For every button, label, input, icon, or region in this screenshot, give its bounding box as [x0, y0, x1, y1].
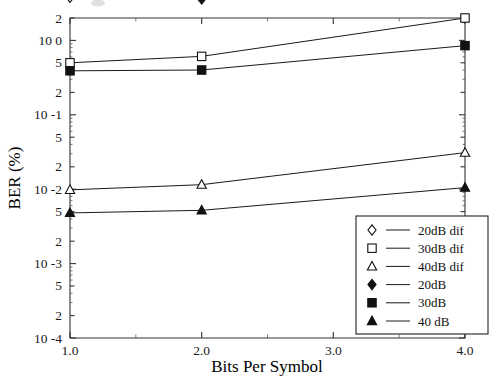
chart-legend: 20dB dif30dB dif40dB dif20dB30dB40 dB	[356, 216, 488, 334]
x-tick-label-0: 1.0	[62, 343, 79, 358]
y-tick-label-5: 5	[55, 130, 62, 145]
y-tick-label-8: 5	[55, 204, 62, 219]
y-axis-title: BER (%)	[5, 147, 24, 210]
marker-filled-square-4-1	[197, 66, 205, 74]
marker-open-square-1-2	[461, 14, 469, 22]
y-tick-label-13: 10 -4	[34, 331, 62, 346]
ber-vs-bits-per-symbol-chart: 210 05210 -15210 -25210 -35210 -4 1.02.0…	[0, 0, 495, 379]
y-tick-label-10: 10 -3	[34, 256, 62, 271]
y-tick-label-11: 5	[55, 278, 62, 293]
x-tick-label-2: 3.0	[325, 343, 342, 358]
marker-open-square-legend-1	[368, 244, 376, 252]
y-tick-label-12: 2	[55, 308, 62, 323]
marker-filled-square-4-2	[461, 41, 469, 49]
chart-figure: 210 05210 -15210 -25210 -35210 -4 1.02.0…	[0, 0, 495, 379]
y-tick-label-7: 10 -2	[34, 182, 62, 197]
marker-filled-square-legend-4	[368, 299, 376, 307]
y-tick-label-4: 10 -1	[34, 107, 62, 122]
legend-label-3: 20dB	[418, 277, 447, 292]
legend-label-1: 30dB dif	[418, 241, 465, 256]
y-tick-label-0: 2	[55, 11, 62, 26]
marker-open-square-1-0	[66, 59, 74, 67]
x-tick-label-1: 2.0	[193, 343, 210, 358]
y-tick-label-2: 5	[55, 55, 62, 70]
legend-label-5: 40 dB	[418, 314, 450, 329]
y-tick-label-3: 2	[55, 85, 62, 100]
x-axis-title: Bits Per Symbol	[211, 357, 323, 376]
y-tick-label-6: 2	[55, 159, 62, 174]
legend-label-2: 40dB dif	[418, 259, 465, 274]
legend-label-0: 20dB dif	[418, 223, 465, 238]
x-tick-label-3: 4.0	[457, 343, 474, 358]
y-tick-label-9: 2	[55, 234, 62, 249]
legend-label-4: 30dB	[418, 295, 447, 310]
y-tick-label-1: 10 0	[38, 33, 62, 48]
marker-filled-square-4-0	[66, 67, 74, 75]
marker-open-square-1-1	[197, 52, 205, 60]
